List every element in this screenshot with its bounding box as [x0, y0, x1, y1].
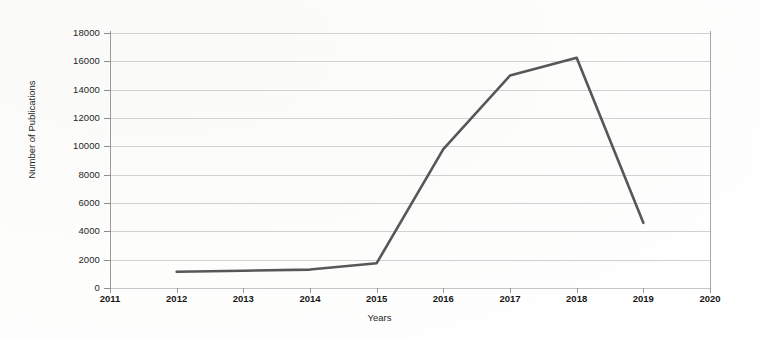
x-tick-label-2015: 2015	[354, 293, 400, 304]
x-axis-title: Years	[0, 312, 759, 323]
y-tick-label-8000: 8000	[0, 169, 100, 180]
y-tick-label-18000: 18000	[0, 27, 100, 38]
publications-polyline	[177, 58, 644, 272]
y-tick-label-0: 0	[0, 282, 100, 293]
x-tick-label-2020: 2020	[687, 293, 733, 304]
plot-right-border	[710, 31, 711, 290]
x-tick-label-2013: 2013	[220, 293, 266, 304]
x-tick-label-2012: 2012	[154, 293, 200, 304]
y-tick-label-4000: 4000	[0, 225, 100, 236]
y-tick-label-2000: 2000	[0, 254, 100, 265]
line-chart-figure: 0200040006000800010000120001400016000180…	[0, 0, 759, 340]
y-tick-label-16000: 16000	[0, 55, 100, 66]
y-tick-label-14000: 14000	[0, 84, 100, 95]
x-tick-label-2016: 2016	[420, 293, 466, 304]
y-tick-label-10000: 10000	[0, 140, 100, 151]
x-tick-label-2014: 2014	[287, 293, 333, 304]
x-tick-label-2019: 2019	[620, 293, 666, 304]
y-axis-title: Number of Publications	[26, 50, 37, 210]
y-tick-label-12000: 12000	[0, 112, 100, 123]
y-tick-label-6000: 6000	[0, 197, 100, 208]
x-tick-label-2011: 2011	[87, 293, 133, 304]
x-tick-label-2017: 2017	[487, 293, 533, 304]
x-tick-label-2018: 2018	[554, 293, 600, 304]
gridline-0	[110, 288, 710, 289]
plot-area	[110, 33, 710, 288]
series-line-publications	[110, 33, 710, 288]
